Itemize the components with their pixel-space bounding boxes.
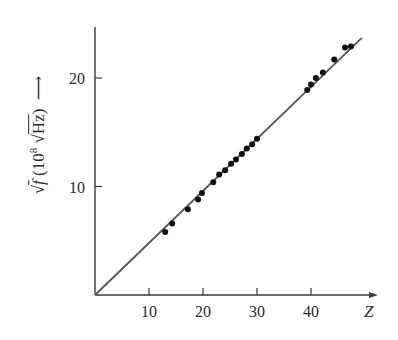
data-point [216,172,222,178]
x-tick-label: 10 [141,303,157,320]
y-tick-label: 20 [69,70,85,87]
data-point [169,220,175,226]
y-label-f: f [29,180,48,185]
x-axis-label: Z [364,302,374,321]
data-point [228,161,234,167]
x-tick-label: 40 [303,303,319,320]
y-label-root: √ [29,185,48,194]
y-label-unit-root: √ [29,134,48,143]
x-axis-arrow-icon [369,292,378,298]
ticks: 102030401020 [69,70,319,320]
data-point [185,206,191,212]
y-tick-label: 10 [69,179,85,196]
data-point [249,141,255,147]
y-label-exponent: 8 [27,148,39,154]
data-point [222,167,228,173]
data-point [162,229,168,235]
y-axis-label: √f (108 √Hz) ⟶ [27,76,49,194]
y-label-arrow-icon: ⟶ [29,76,48,105]
x-tick-label: 30 [249,303,265,320]
data-point [313,75,319,81]
y-label-unit: Hz [29,114,48,134]
data-point [331,57,337,63]
data-point [342,45,348,51]
data-point [195,197,201,203]
data-point [348,44,354,50]
data-point [233,156,239,162]
y-label-unit-open: (10 [29,153,48,176]
data-point [308,82,314,88]
data-point [304,87,310,93]
data-point [244,146,250,152]
data-point [254,136,260,142]
plot-area: 102030401020 Z [0,0,398,340]
data-points [162,44,354,236]
fit-line [95,38,362,295]
y-label-unit-close: ) [29,109,48,115]
axes [95,27,378,298]
x-tick-label: 20 [195,303,211,320]
regression-line [95,38,362,295]
data-point [199,190,205,196]
data-point [210,179,216,185]
data-point [320,70,326,76]
data-point [239,151,245,157]
